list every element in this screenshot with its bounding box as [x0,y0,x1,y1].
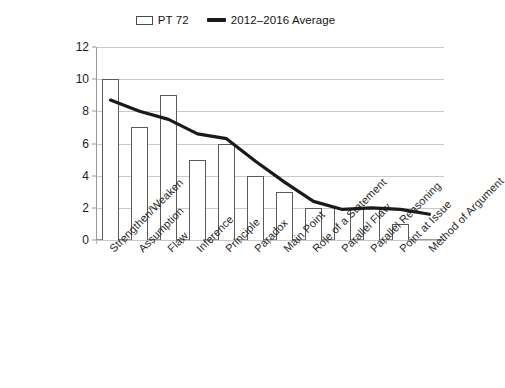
bar-slot [212,47,241,240]
bar-slot [183,47,212,240]
x-axis-category-labels: Strengthen/WeakenAssumptionFlawInference… [96,246,444,381]
y-axis-tick-mark [92,111,96,112]
legend-label-pt-72: PT 72 [158,14,189,26]
y-axis-tick-mark [92,47,96,48]
bar [102,79,118,240]
bar-slot [241,47,270,240]
bar-swatch-icon [136,16,153,25]
bar-slot [299,47,328,240]
y-axis-tick-label: 12 [76,40,89,54]
y-axis-tick-mark [92,79,96,80]
y-axis-tick-label: 0 [82,233,89,247]
y-axis-tick-mark [92,175,96,176]
legend-label-average: 2012–2016 Average [231,14,335,26]
bar [189,160,205,240]
bar-slot [270,47,299,240]
legend-item-pt-72: PT 72 [136,14,189,26]
y-axis-tick-mark [92,207,96,208]
line-swatch-icon [207,18,226,23]
y-axis-tick-label: 4 [82,169,89,183]
y-axis-tick-label: 2 [82,201,89,215]
y-axis-tick-label: 6 [82,137,89,151]
y-axis-tick-label: 8 [82,104,89,118]
legend-item-average: 2012–2016 Average [207,14,335,26]
bar-slot [96,47,125,240]
chart-legend: PT 72 2012–2016 Average [0,14,471,26]
y-axis-tick-mark [92,143,96,144]
y-axis-tick-label: 10 [76,72,89,86]
